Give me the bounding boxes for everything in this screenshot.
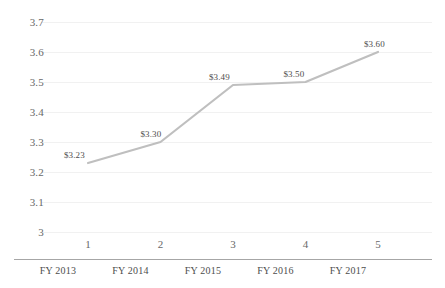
data-point-label: $3.49 (209, 73, 230, 82)
data-point-label: $3.23 (64, 151, 85, 160)
series-line (88, 52, 378, 163)
x-axis-index-label: 4 (286, 239, 326, 250)
x-axis-category-label: FY 2017 (305, 265, 391, 276)
x-axis-index-label: 3 (213, 239, 253, 250)
data-point-label: $3.50 (284, 70, 305, 79)
data-point-label: $3.60 (364, 40, 385, 49)
data-point-label: $3.30 (141, 130, 162, 139)
line-chart: 3.73.63.53.43.33.23.13 $3.23$3.30$3.49$3… (0, 0, 445, 288)
x-axis-index-label: 2 (141, 239, 181, 250)
x-axis-index-label: 1 (68, 239, 108, 250)
x-axis-line (14, 259, 432, 260)
x-axis-index-label: 5 (358, 239, 398, 250)
